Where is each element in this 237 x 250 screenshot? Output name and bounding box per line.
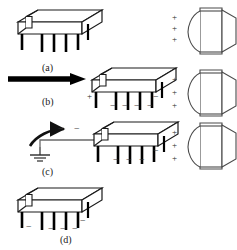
negative-charge-mark: − <box>48 224 54 233</box>
step-a-person <box>188 8 236 54</box>
step-a-device <box>18 10 102 52</box>
negative-charge-mark: − <box>153 146 159 155</box>
negative-charge-mark: − <box>134 101 140 110</box>
positive-charge-mark: + <box>172 128 177 137</box>
negative-charge-mark: − <box>26 222 32 231</box>
negative-charge-mark: − <box>60 224 66 233</box>
positive-charge-mark: + <box>172 13 177 22</box>
positive-charge-mark: + <box>172 154 177 163</box>
subfigure-caption-b: (b) <box>42 96 54 107</box>
step-c-device <box>94 122 178 164</box>
step-b-arrow <box>8 73 86 85</box>
positive-charge-mark: + <box>172 141 177 150</box>
negative-charge-mark: − <box>122 101 128 110</box>
negative-charge-mark: − <box>113 155 119 164</box>
positive-charge-mark: + <box>172 35 177 44</box>
step-b-person <box>188 70 236 116</box>
step-c-ground <box>30 140 98 161</box>
negative-charge-mark: − <box>74 124 80 133</box>
figure-canvas <box>0 0 237 250</box>
negative-charge-mark: − <box>139 155 145 164</box>
step-c-person <box>188 123 236 169</box>
negative-charge-mark: − <box>126 155 132 164</box>
subfigure-caption-c: (c) <box>42 166 53 177</box>
negative-charge-mark: − <box>153 92 159 101</box>
negative-charge-mark: − <box>147 101 153 110</box>
subfigure-caption-a: (a) <box>42 62 53 73</box>
positive-charge-mark: + <box>87 92 92 101</box>
positive-charge-mark: + <box>172 24 177 33</box>
negative-charge-mark: − <box>80 216 86 225</box>
negative-charge-mark: − <box>110 101 116 110</box>
negative-charge-mark: − <box>58 124 64 133</box>
positive-charge-mark: + <box>172 75 177 84</box>
subfigure-caption-d: (d) <box>60 234 72 245</box>
esd-sequence-figure: ++++++++++−−−−−−−−−−−−−−−− (a)(b)(c)(d) <box>0 0 237 250</box>
negative-charge-mark: − <box>72 224 78 233</box>
positive-charge-mark: + <box>172 101 177 110</box>
positive-charge-mark: + <box>172 88 177 97</box>
